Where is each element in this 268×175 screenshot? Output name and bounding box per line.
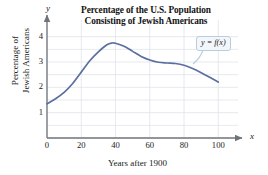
x-tick-label: 0 bbox=[36, 140, 58, 150]
y-axis-letter: y bbox=[46, 3, 50, 13]
y-tick-label: 4 bbox=[31, 31, 43, 41]
x-tick-label: 80 bbox=[173, 140, 195, 150]
y-axis-label: Percentage of Jewish Americans bbox=[10, 5, 31, 117]
x-tick-label: 20 bbox=[70, 140, 92, 150]
y-tick-label: 2 bbox=[31, 81, 43, 91]
y-axis-label-line-1: Percentage of bbox=[10, 5, 21, 117]
x-tick-label: 40 bbox=[105, 140, 127, 150]
x-axis-letter: x bbox=[250, 131, 254, 141]
x-tick-label: 100 bbox=[207, 140, 229, 150]
y-tick-label: 1 bbox=[31, 107, 43, 117]
y-axis-label-line-2: Jewish Americans bbox=[20, 5, 31, 117]
x-axis-label: Years after 1900 bbox=[55, 158, 220, 168]
data-curve bbox=[47, 43, 218, 104]
function-annotation-callout: y = f(x) bbox=[196, 36, 231, 52]
series-line-y-equals-f-of-x bbox=[47, 43, 218, 104]
chart-title-line-1: Percentage of the U.S. Population bbox=[56, 5, 236, 16]
chart-title: Percentage of the U.S. Population Consis… bbox=[56, 5, 236, 27]
chart-title-line-2: Consisting of Jewish Americans bbox=[56, 16, 236, 27]
y-tick-label: 3 bbox=[31, 56, 43, 66]
axes bbox=[47, 15, 242, 138]
x-tick-label: 60 bbox=[139, 140, 161, 150]
